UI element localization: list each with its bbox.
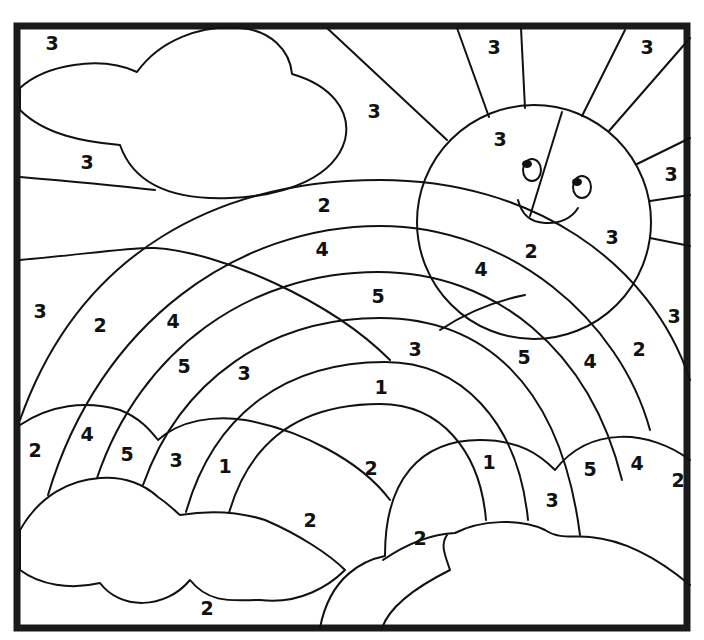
region-number-ray-top-2: 3 [640, 36, 653, 58]
region-number-band-2-right: 2 [632, 338, 645, 360]
sun-pupil-right [572, 178, 582, 186]
region-number-ray-top-1: 3 [487, 36, 500, 58]
region-number-band-5-top: 5 [371, 285, 384, 307]
region-number-cloud-r-1: 1 [482, 451, 495, 473]
sun-ray [582, 30, 625, 116]
region-number-band-4-sun: 4 [474, 258, 487, 280]
region-number-cloud-l-1: 1 [218, 455, 231, 477]
region-number-band-2-top: 2 [317, 194, 330, 216]
coloring-page: 33333333224453243533542124531215423222 [0, 0, 704, 640]
region-number-cloud-l-2: 2 [28, 439, 41, 461]
region-number-band-2-sun: 2 [524, 240, 537, 262]
region-number-sky-left: 3 [33, 300, 46, 322]
region-number-cloud-r-4: 4 [630, 452, 643, 474]
region-number-sun-left: 3 [493, 128, 506, 150]
region-number-band-3-left: 3 [237, 362, 250, 384]
region-number-band-4-right: 4 [583, 350, 596, 372]
region-number-cloud-l-5: 5 [120, 443, 133, 465]
cloud-top-left [20, 28, 346, 199]
region-number-cloud-l-3: 3 [169, 449, 182, 471]
cloud-bottom-left [20, 478, 345, 603]
region-number-ground-right-2: 2 [413, 527, 426, 549]
sun-ray [521, 28, 525, 108]
region-number-ground-bottom-2: 2 [200, 597, 213, 619]
rainbow-arc-2 [48, 226, 650, 495]
rainbow-arc-4 [143, 318, 580, 535]
region-number-band-5-left: 5 [177, 355, 190, 377]
sun-ray [637, 138, 690, 164]
region-number-ray-right-low: 3 [667, 305, 680, 327]
region-number-band-3-top: 3 [408, 338, 421, 360]
region-number-band-4-top: 4 [315, 238, 328, 260]
region-number-sky-between-rays: 3 [367, 100, 380, 122]
region-number-band-1-top: 1 [374, 376, 387, 398]
sky-line-2 [20, 248, 390, 360]
sun-ray [457, 28, 489, 117]
cloud-bottom-right [320, 522, 690, 628]
cloud-left-back [20, 405, 390, 500]
region-number-cloud-r-3: 3 [545, 489, 558, 511]
region-number-sun-right: 3 [605, 226, 618, 248]
sun-divider [530, 112, 562, 216]
region-number-band-5-right: 5 [517, 346, 530, 368]
region-number-inner-arc-2: 2 [364, 457, 377, 479]
region-number-ray-right-1: 3 [664, 163, 677, 185]
sun-pupil-left [522, 160, 532, 168]
region-number-cloud-r-2: 2 [671, 469, 684, 491]
region-number-cloud-r-5: 5 [583, 458, 596, 480]
number-labels: 33333333224453243533542124531215423222 [28, 32, 684, 619]
rainbow-arc-1 [20, 180, 690, 420]
region-number-sky-top-left: 3 [45, 32, 58, 54]
region-number-band-2-left: 2 [93, 314, 106, 336]
sun [417, 105, 651, 339]
cloud-right-lower [382, 535, 450, 628]
region-number-band-4-left: 4 [166, 310, 179, 332]
rainbow-arc-6 [229, 404, 486, 520]
sky-line-1 [20, 177, 155, 190]
line-art [20, 28, 690, 628]
region-number-ground-center-2: 2 [303, 509, 316, 531]
region-number-sky-above-cloud-gap: 3 [80, 151, 93, 173]
region-number-cloud-l-4: 4 [80, 423, 93, 445]
